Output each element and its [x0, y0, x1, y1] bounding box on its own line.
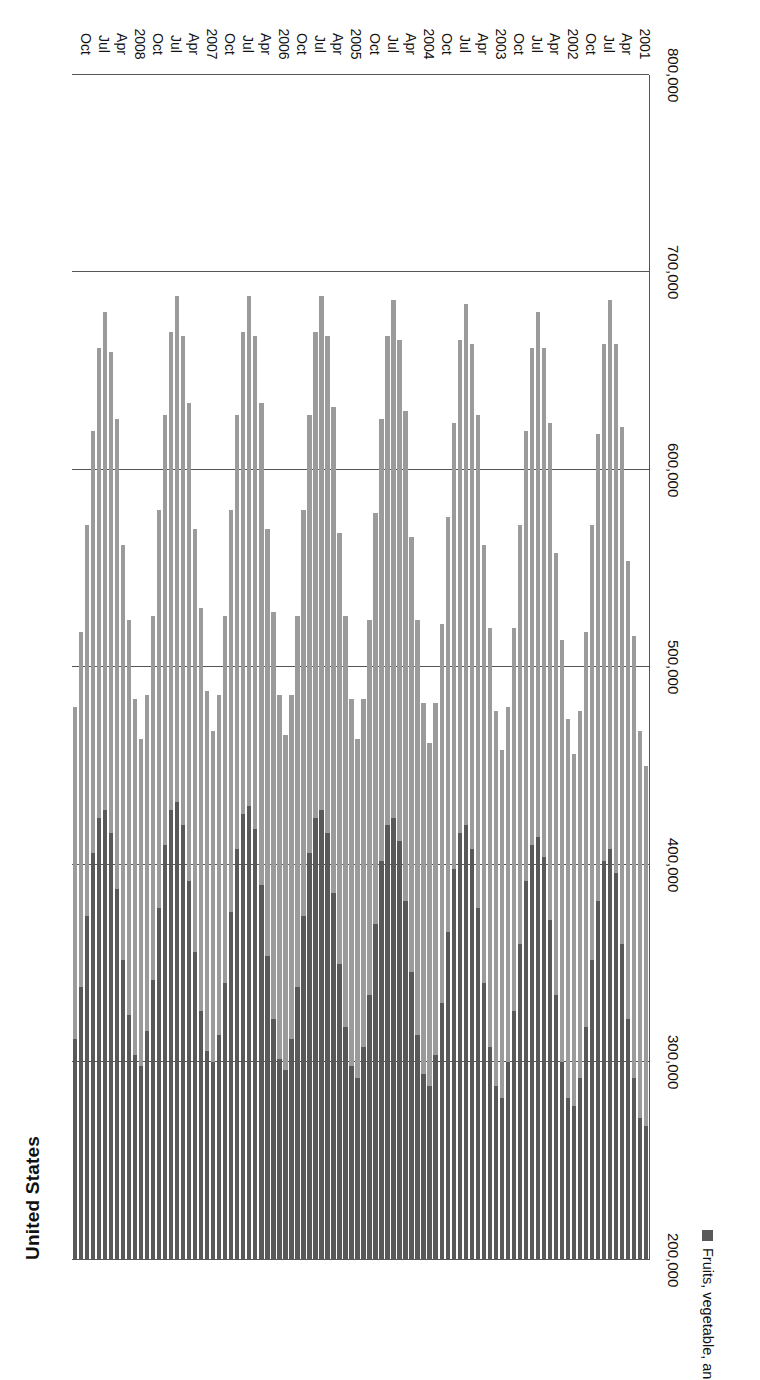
bar-segment-fruits-vegetable-horticultural	[109, 833, 113, 1260]
bar-segment-fruits-vegetable-horticultural	[512, 1011, 516, 1260]
bar-segment-farm-labor-contractors	[265, 529, 269, 956]
category-tick-label: Apr	[403, 21, 419, 67]
bar-row	[427, 75, 431, 1260]
bar-row	[440, 75, 444, 1260]
bar-row	[620, 75, 624, 1260]
category-tick-label: Jul	[96, 21, 112, 67]
bar-segment-farm-labor-contractors	[355, 739, 359, 1079]
bar-segment-farm-labor-contractors	[470, 344, 474, 850]
bar-segment-fruits-vegetable-horticultural	[127, 1015, 131, 1260]
bar-segment-farm-labor-contractors	[121, 545, 125, 960]
bar-row	[415, 75, 419, 1260]
bar-segment-farm-labor-contractors	[518, 525, 522, 944]
bar-row	[241, 75, 245, 1260]
bar-segment-fruits-vegetable-horticultural	[464, 826, 468, 1261]
bar-segment-farm-labor-contractors	[295, 616, 299, 987]
bar-row	[632, 75, 636, 1260]
bar-segment-fruits-vegetable-horticultural	[139, 1066, 143, 1260]
bar-segment-fruits-vegetable-horticultural	[458, 833, 462, 1260]
bar-row	[367, 75, 371, 1260]
bar-segment-farm-labor-contractors	[644, 766, 648, 1125]
bar-segment-farm-labor-contractors	[554, 553, 558, 995]
bar-segment-farm-labor-contractors	[271, 612, 275, 1019]
bar-row	[626, 75, 630, 1260]
bar-row	[524, 75, 528, 1260]
bar-segment-fruits-vegetable-horticultural	[367, 995, 371, 1260]
bar-segment-fruits-vegetable-horticultural	[355, 1078, 359, 1260]
bar-segment-fruits-vegetable-horticultural	[331, 893, 335, 1260]
category-tick-label: Oct	[150, 21, 166, 67]
bar-segment-fruits-vegetable-horticultural	[572, 1106, 576, 1260]
bar-row	[235, 75, 239, 1260]
bar-row	[121, 75, 125, 1260]
bar-segment-fruits-vegetable-horticultural	[397, 841, 401, 1260]
bar-row	[560, 75, 564, 1260]
bar-segment-farm-labor-contractors	[205, 691, 209, 1050]
legend-item[interactable]: Fruits, vegetable, and horticultural pro…	[700, 1230, 716, 1380]
bar-row	[506, 75, 510, 1260]
bar-segment-fruits-vegetable-horticultural	[241, 814, 245, 1260]
bar-segment-fruits-vegetable-horticultural	[307, 853, 311, 1260]
bar-segment-farm-labor-contractors	[151, 616, 155, 979]
bar-row	[566, 75, 570, 1260]
bar-segment-farm-labor-contractors	[578, 711, 582, 1078]
bar-segment-farm-labor-contractors	[415, 620, 419, 1035]
bar-segment-fruits-vegetable-horticultural	[433, 1055, 437, 1260]
category-tick-label: Oct	[367, 21, 383, 67]
bar-segment-fruits-vegetable-horticultural	[337, 964, 341, 1260]
bar-row	[217, 75, 221, 1260]
bar-row	[572, 75, 576, 1260]
bar-segment-fruits-vegetable-horticultural	[211, 1063, 215, 1261]
bar-row	[325, 75, 329, 1260]
category-tick-label: 2006	[276, 21, 292, 67]
bar-segment-fruits-vegetable-horticultural	[409, 972, 413, 1260]
bar-row	[385, 75, 389, 1260]
bar-row	[289, 75, 293, 1260]
bar-row	[446, 75, 450, 1260]
figure: United States 200,000300,000400,000500,0…	[0, 0, 760, 1380]
plot-area	[72, 75, 649, 1260]
bar-segment-farm-labor-contractors	[638, 731, 642, 1118]
bar-segment-fruits-vegetable-horticultural	[403, 901, 407, 1260]
bar-segment-fruits-vegetable-horticultural	[157, 908, 161, 1260]
bar-segment-farm-labor-contractors	[373, 513, 377, 924]
bar-row	[578, 75, 582, 1260]
bar-row	[91, 75, 95, 1260]
bar-segment-fruits-vegetable-horticultural	[103, 810, 107, 1260]
bar-segment-fruits-vegetable-horticultural	[145, 1031, 149, 1260]
bar-row	[482, 75, 486, 1260]
bar-row	[542, 75, 546, 1260]
bar-row	[127, 75, 131, 1260]
bar-segment-farm-labor-contractors	[241, 332, 245, 814]
bar-segment-farm-labor-contractors	[133, 699, 137, 1055]
bar-segment-farm-labor-contractors	[464, 304, 468, 825]
bar-segment-farm-labor-contractors	[175, 296, 179, 802]
bar-segment-farm-labor-contractors	[181, 336, 185, 826]
value-tick-label: 700,000	[665, 246, 682, 300]
bar-segment-farm-labor-contractors	[97, 348, 101, 818]
bar-segment-farm-labor-contractors	[379, 419, 383, 861]
category-tick-label: Jul	[168, 21, 184, 67]
value-tick-label: 500,000	[665, 641, 682, 695]
category-tick-label: 2007	[204, 21, 220, 67]
bar-row	[181, 75, 185, 1260]
bar-segment-fruits-vegetable-horticultural	[361, 1047, 365, 1260]
category-tick-label: Jul	[601, 21, 617, 67]
bar-row	[403, 75, 407, 1260]
bar-segment-fruits-vegetable-horticultural	[482, 984, 486, 1261]
bar-row	[391, 75, 395, 1260]
bar-segment-farm-labor-contractors	[590, 525, 594, 960]
bar-segment-fruits-vegetable-horticultural	[632, 1078, 636, 1260]
bar-segment-farm-labor-contractors	[476, 415, 480, 909]
bar-segment-fruits-vegetable-horticultural	[181, 826, 185, 1261]
category-tick-label: Oct	[583, 21, 599, 67]
rotated-figure-wrapper: United States 200,000300,000400,000500,0…	[0, 0, 760, 1380]
bar-segment-farm-labor-contractors	[632, 636, 636, 1078]
bar-segment-farm-labor-contractors	[193, 529, 197, 952]
bar-segment-farm-labor-contractors	[157, 510, 161, 909]
bar-segment-farm-labor-contractors	[187, 403, 191, 881]
page-title: United States	[22, 1136, 44, 1260]
bar-row	[530, 75, 534, 1260]
bar-row	[644, 75, 648, 1260]
bar-segment-fruits-vegetable-horticultural	[638, 1118, 642, 1260]
